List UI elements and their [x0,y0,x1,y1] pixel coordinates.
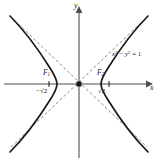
equation-minus-operator: − [119,50,123,58]
tick-negative-radicand: 2 [44,87,48,95]
focus-2-subscript: 2 [102,71,105,77]
tick-positive-radicand: 2 [102,87,106,95]
equation-label: x2 − y2 = 1 [112,51,141,58]
hyperbola-figure: y x x2 − y2 = 1 F1 F2 −√2 √2 [0,0,160,161]
equation-x-exponent: 2 [115,50,117,55]
y-axis-label: y [74,2,78,10]
x-tick-label-positive-sqrt2: √2 [98,88,105,95]
equation-equals-one: = 1 [132,50,141,58]
origin-dot [77,82,82,87]
x-axis-label: x [150,84,154,92]
focus-1-subscript: 1 [48,71,51,77]
x-tick-label-negative-sqrt2: −√2 [36,88,47,95]
figure-canvas [0,0,160,161]
equation-y-exponent: 2 [128,50,130,55]
focus-1-label: F1 [43,69,50,78]
focus-2-label: F2 [97,69,104,78]
